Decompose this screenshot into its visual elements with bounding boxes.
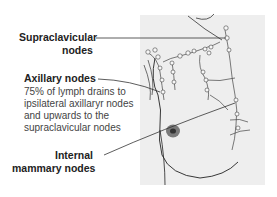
label-internal-mammary-line1: Internal [55, 149, 93, 161]
axillary-desc-line4: supraclavicular nodes [24, 122, 121, 134]
axillary-desc-line3: and upwards to the [24, 110, 109, 122]
axillary-desc-line2: ipsilateral axillaryr nodes [24, 98, 134, 110]
label-supraclavicular-line1: Supraclavicular [19, 31, 97, 43]
label-internal-mammary-line2: mammary nodes [12, 162, 95, 174]
axillary-desc-line1: 75% of lymph drains to [24, 86, 126, 98]
label-supraclavicular-line2: nodes [62, 44, 93, 56]
label-axillary-title: Axillary nodes [24, 72, 96, 84]
